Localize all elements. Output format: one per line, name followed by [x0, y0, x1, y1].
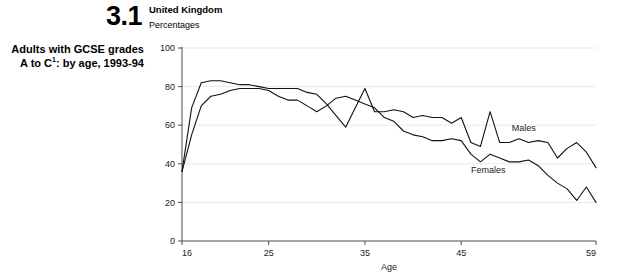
series-line-females: [182, 89, 596, 203]
chart-canvas: 020406080100 1625354559 MalesFemales Age: [0, 0, 619, 273]
x-tick-label: 16: [182, 248, 192, 258]
x-axis-ticks: 1625354559: [182, 241, 596, 258]
line-chart: 020406080100 1625354559 MalesFemales Age: [0, 0, 619, 273]
x-tick-label: 35: [360, 248, 370, 258]
y-tick-label: 20: [165, 198, 175, 208]
x-tick-label: 45: [456, 248, 466, 258]
y-axis-ticks: 020406080100: [160, 43, 182, 246]
y-tick-label: 0: [170, 236, 175, 246]
x-tick-label: 59: [586, 248, 596, 258]
y-tick-label: 100: [160, 43, 175, 53]
x-tick-label: 25: [264, 248, 274, 258]
y-tick-label: 80: [165, 82, 175, 92]
x-axis-title: Age: [381, 262, 397, 272]
series-label-males: Males: [512, 123, 537, 133]
series-labels: MalesFemales: [471, 123, 536, 175]
y-tick-label: 60: [165, 120, 175, 130]
series-label-females: Females: [471, 165, 506, 175]
y-tick-label: 40: [165, 159, 175, 169]
series-lines: [182, 81, 596, 203]
